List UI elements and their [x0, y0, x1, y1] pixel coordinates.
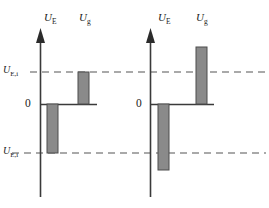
right-panel-axis-arrowhead	[146, 28, 155, 43]
reference-label-lower: UE,i	[3, 146, 18, 159]
figure-canvas	[0, 0, 269, 208]
left-panel-zero-label: 0	[25, 98, 31, 110]
left-panel-header-ug: Ug	[79, 12, 91, 26]
right-panel-bar-ug	[196, 47, 207, 104]
left-panel-bar-ug	[78, 72, 89, 104]
right-panel-zero-label: 0	[136, 98, 142, 110]
energy-level-bar-figure: UE Ug UE Ug 0 0 UE,i UE,i	[0, 0, 269, 208]
right-panel-header-ug: Ug	[196, 12, 208, 26]
left-panel-axis-arrowhead	[36, 28, 45, 43]
right-panel-bar-ue	[158, 104, 169, 170]
left-panel-bar-ue	[47, 104, 58, 153]
right-panel-header-ue: UE	[158, 12, 171, 26]
reference-label-upper: UE,i	[3, 65, 18, 78]
left-panel-header-ue: UE	[44, 12, 57, 26]
